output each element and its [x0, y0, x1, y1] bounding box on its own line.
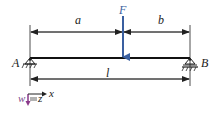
label-support-b: B [201, 56, 209, 70]
label-w: w [18, 92, 26, 104]
label-length: l [106, 66, 110, 80]
support-a-icon [22, 58, 37, 68]
label-force: F [118, 3, 127, 17]
label-z: z [37, 92, 43, 104]
label-support-a: A [11, 56, 20, 70]
extension-lines [30, 25, 190, 86]
coordinate-axes-icon [26, 92, 48, 107]
label-x: x [48, 87, 54, 99]
label-a: a [75, 13, 81, 27]
label-b: b [158, 13, 164, 27]
beam-diagram: a b F A B l w z x [0, 0, 220, 115]
